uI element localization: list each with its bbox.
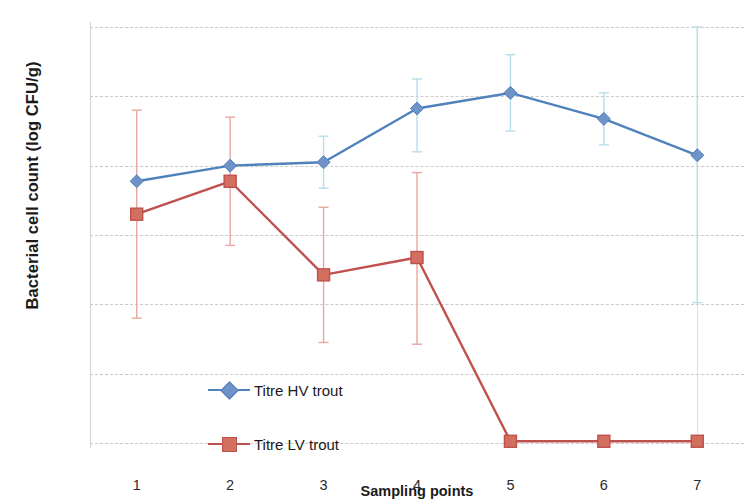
data-point-marker: [691, 149, 704, 162]
x-axis-title: Sampling points: [90, 483, 744, 499]
data-point-marker: [598, 435, 610, 447]
data-point-marker: [504, 86, 517, 99]
legend-marker-diamond-icon: [208, 383, 250, 397]
series-layer: [90, 27, 744, 443]
gridline: [90, 443, 744, 444]
legend-item-hv: Titre HV trout: [208, 377, 343, 403]
legend: Titre HV trout Titre LV trout: [208, 377, 343, 485]
data-point-marker: [130, 175, 143, 188]
data-point-marker: [224, 175, 236, 187]
data-point-marker: [411, 102, 424, 115]
data-point-marker: [691, 435, 703, 447]
chart-container: Bacterial cell count (log CFU/g) 0246810…: [0, 0, 744, 502]
legend-item-lv: Titre LV trout: [208, 431, 343, 457]
legend-label-lv: Titre LV trout: [254, 436, 339, 453]
legend-marker-square-icon: [208, 437, 250, 451]
data-point-marker: [504, 435, 516, 447]
data-point-marker: [131, 208, 143, 220]
data-point-marker: [318, 269, 330, 281]
data-point-marker: [224, 159, 237, 172]
data-point-marker: [317, 156, 330, 169]
data-point-marker: [411, 252, 423, 264]
error-bars: [319, 27, 703, 303]
plot-area: 024681012 1234567 Titre HV trout Titre L…: [90, 27, 744, 443]
legend-label-hv: Titre HV trout: [254, 382, 343, 399]
y-axis-title: Bacterial cell count (log CFU/g): [23, 6, 42, 366]
data-point-marker: [597, 112, 610, 125]
